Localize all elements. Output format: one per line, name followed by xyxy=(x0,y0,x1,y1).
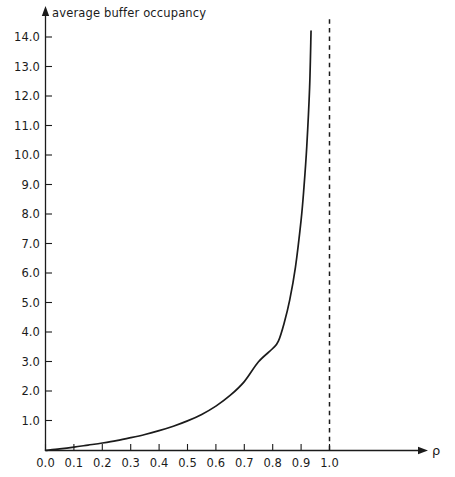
y-tick-label: 2.0 xyxy=(0,384,40,398)
y-tick-label: 6.0 xyxy=(0,266,40,280)
y-tick-label: 4.0 xyxy=(0,325,40,339)
occupancy-curve xyxy=(46,31,312,450)
y-tick-label: 13.0 xyxy=(0,60,40,74)
x-tick-label: 0.8 xyxy=(263,456,282,470)
x-axis-arrow-icon xyxy=(418,447,428,454)
x-tick-label: 0.9 xyxy=(292,456,311,470)
y-tick-label: 8.0 xyxy=(0,207,40,221)
x-tick-label: 0.7 xyxy=(235,456,254,470)
y-axis-arrow-icon xyxy=(42,6,49,16)
x-tick-label: 0.1 xyxy=(65,456,84,470)
y-tick-label: 12.0 xyxy=(0,89,40,103)
x-tick-label: 0.5 xyxy=(178,456,197,470)
y-tick-label: 1.0 xyxy=(0,414,40,428)
x-tick-label: 0.3 xyxy=(121,456,140,470)
x-tick-label: 1.0 xyxy=(320,456,339,470)
y-tick-label: 14.0 xyxy=(0,30,40,44)
x-tick-label: 0.2 xyxy=(93,456,112,470)
y-tick-label: 7.0 xyxy=(0,237,40,251)
y-axis-title: average buffer occupancy xyxy=(52,6,206,20)
x-tick-label: 0.6 xyxy=(207,456,226,470)
y-axis-ticks xyxy=(46,37,53,421)
x-axis-title: ρ xyxy=(432,443,440,458)
chart-figure: 1.0 2.0 3.0 4.0 5.0 6.0 7.0 8.0 9.0 10.0… xyxy=(0,0,455,477)
y-tick-label: 11.0 xyxy=(0,119,40,133)
x-tick-label: 0.0 xyxy=(36,456,55,470)
y-tick-label: 3.0 xyxy=(0,355,40,369)
y-tick-label: 9.0 xyxy=(0,178,40,192)
x-tick-label: 0.4 xyxy=(150,456,169,470)
y-tick-label: 5.0 xyxy=(0,296,40,310)
y-tick-label: 10.0 xyxy=(0,148,40,162)
plot-canvas xyxy=(0,0,455,477)
